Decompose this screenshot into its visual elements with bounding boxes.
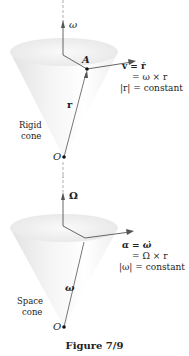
space-label-line2: cone — [22, 308, 42, 317]
eq-omega-cross-r: = ω × r — [132, 72, 167, 82]
eq-r-constant: |r| = constant — [120, 83, 183, 93]
capital-omega-axis-label: Ω — [69, 191, 78, 201]
eq-omega-constant: |ω| = constant — [119, 262, 185, 272]
rigid-label-line2: cone — [21, 132, 41, 141]
eq-v-rdot: v = ṙ — [122, 61, 146, 71]
rigid-label-line1: Rigid — [19, 121, 42, 130]
omega-vector-label: ω — [65, 283, 75, 293]
point-a-label: A — [82, 55, 90, 65]
r-vector-label: r — [67, 100, 72, 110]
space-label-line1: Space — [17, 297, 43, 306]
eq-alpha-omegadot: α = ω̇ — [122, 240, 151, 250]
origin-o-label-bottom: O — [53, 322, 61, 332]
eq-Omega-cross-r: = Ω × r — [132, 251, 167, 261]
omega-axis-label: ω — [69, 20, 77, 30]
figure-caption: Figure 7/9 — [0, 340, 189, 351]
origin-o-label-top: O — [53, 152, 61, 162]
